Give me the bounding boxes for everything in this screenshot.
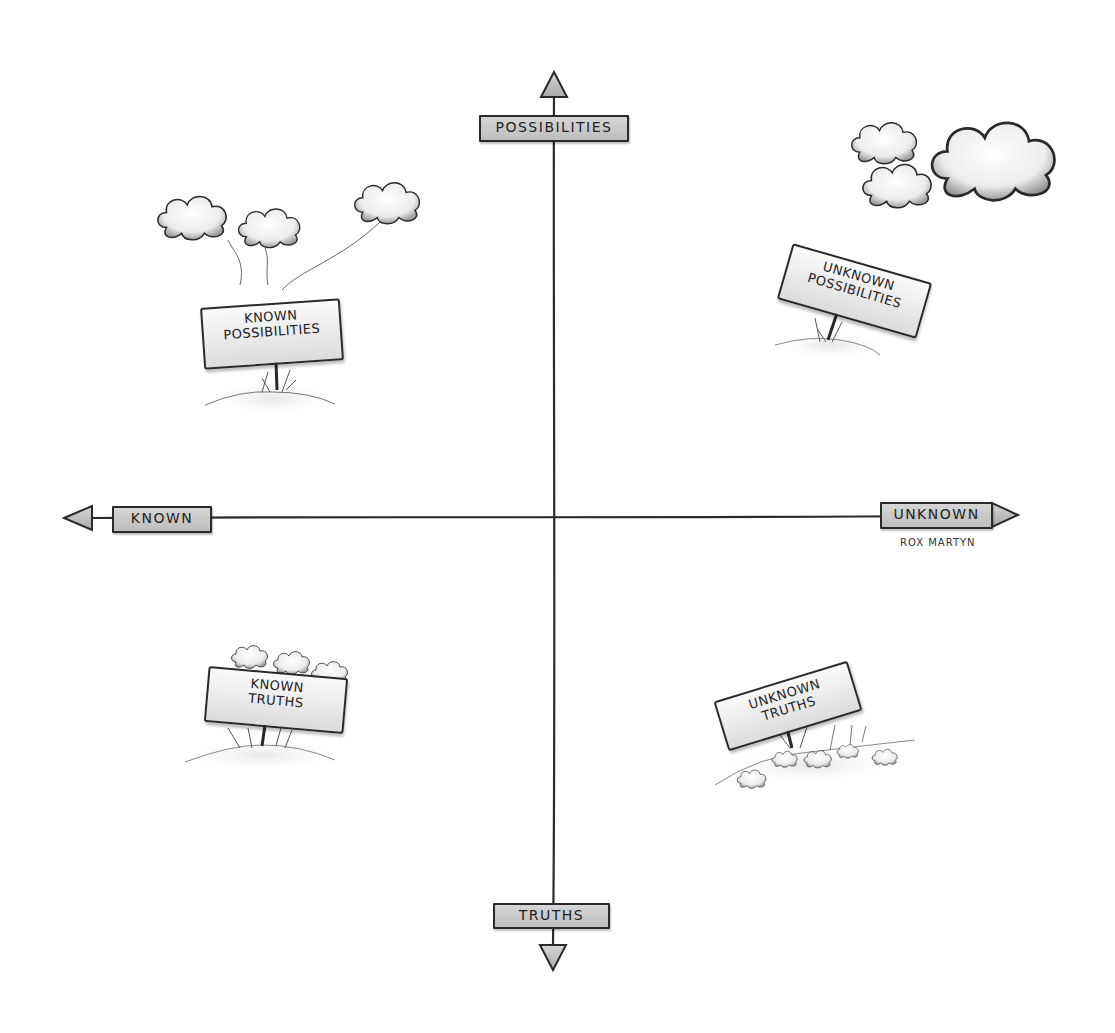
axis-label-known: KNOWN bbox=[112, 506, 212, 533]
arrow-up-icon bbox=[541, 72, 567, 97]
vertical-axis bbox=[540, 72, 567, 970]
cloud-icon bbox=[872, 749, 897, 765]
artist-signature: ROX MARTYN bbox=[900, 537, 976, 548]
cloud-icon bbox=[232, 646, 268, 669]
cloud-icon bbox=[863, 164, 931, 207]
axis-label-possibilities: POSSIBILITIES bbox=[479, 115, 629, 142]
cloud-icon bbox=[852, 123, 917, 164]
arrow-down-icon bbox=[540, 945, 566, 970]
sign-known-possibilities: KNOWN POSSIBILITIES bbox=[200, 298, 344, 370]
cloud-icon bbox=[158, 196, 226, 239]
arrow-right-icon bbox=[992, 503, 1018, 527]
cloud-icon bbox=[932, 123, 1054, 200]
axis-label-truths: TRUTHS bbox=[493, 903, 610, 929]
arrow-left-icon bbox=[64, 506, 92, 530]
cloud-icon bbox=[274, 652, 310, 675]
cloud-icon bbox=[355, 183, 420, 224]
cloud-icon bbox=[239, 209, 300, 248]
axis-label-unknown: UNKNOWN bbox=[880, 502, 993, 529]
known-possibilities-illustration bbox=[158, 183, 420, 416]
